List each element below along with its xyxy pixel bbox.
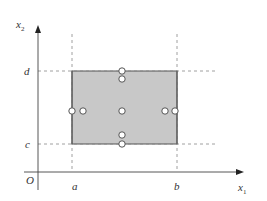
point-left-edge bbox=[69, 108, 75, 114]
diagram-svg: x2 x1 O d c a b bbox=[0, 0, 267, 201]
label-a: a bbox=[72, 180, 78, 192]
label-c: c bbox=[25, 138, 30, 150]
point-left-inner bbox=[80, 108, 86, 114]
x-axis-arrow-icon bbox=[236, 169, 244, 175]
x-axis-label: x1 bbox=[237, 181, 247, 196]
point-top-inner bbox=[119, 76, 125, 82]
y-axis-arrow-icon bbox=[35, 25, 41, 33]
point-right-edge bbox=[172, 108, 178, 114]
point-right-inner bbox=[162, 108, 168, 114]
point-top-edge bbox=[119, 68, 125, 74]
point-bottom-inner bbox=[119, 132, 125, 138]
point-bottom-edge bbox=[119, 141, 125, 147]
label-b: b bbox=[174, 180, 180, 192]
label-d: d bbox=[24, 65, 30, 77]
point-center bbox=[119, 108, 125, 114]
diagram-canvas: x2 x1 O d c a b bbox=[0, 0, 267, 201]
y-axis-label: x2 bbox=[15, 18, 25, 33]
origin-label: O bbox=[26, 174, 34, 186]
